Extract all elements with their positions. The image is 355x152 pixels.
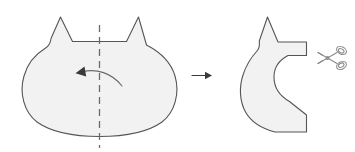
scissors-icon	[318, 45, 348, 71]
step-2-group	[240, 17, 306, 132]
step-arrow	[192, 72, 212, 79]
diagram-canvas	[0, 0, 355, 152]
cat-head-folded-shape	[240, 17, 306, 132]
fold-and-cut-diagram: Fold and cut instruction diagram Cat hea…	[0, 0, 355, 152]
step-1-group	[22, 17, 177, 148]
